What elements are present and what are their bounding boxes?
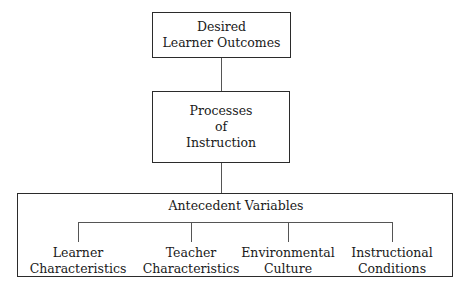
branch-drop-environmental	[288, 222, 289, 242]
leaf-instructional-line-2: Conditions	[351, 261, 433, 277]
diagram-canvas: Desired Learner Outcomes Processes of In…	[0, 0, 472, 291]
node-processes-of-instruction: Processes of Instruction	[152, 91, 290, 163]
connector-processes-to-antecedent	[221, 163, 222, 193]
node-outcomes-line-2: Learner Outcomes	[162, 35, 280, 51]
leaf-teacher-line-2: Characteristics	[143, 261, 240, 277]
leaf-instructional-line-1: Instructional	[351, 245, 433, 261]
branch-drop-teacher	[191, 222, 192, 242]
node-processes-line-1: Processes	[190, 103, 253, 119]
leaf-instructional-conditions: Instructional Conditions	[351, 245, 433, 278]
leaf-environmental-line-1: Environmental	[241, 245, 335, 261]
leaf-learner-line-2: Characteristics	[30, 261, 127, 277]
node-outcomes-line-1: Desired	[197, 19, 246, 35]
node-desired-learner-outcomes: Desired Learner Outcomes	[152, 12, 291, 58]
node-processes-line-3: Instruction	[186, 135, 256, 151]
node-processes-line-2: of	[215, 119, 227, 135]
leaf-teacher-characteristics: Teacher Characteristics	[143, 245, 240, 278]
branch-horizontal-bar	[78, 222, 393, 223]
leaf-learner-line-1: Learner	[30, 245, 127, 261]
leaf-learner-characteristics: Learner Characteristics	[30, 245, 127, 278]
connector-outcomes-to-processes	[221, 58, 222, 91]
branch-drop-learner	[78, 222, 79, 242]
branch-drop-instructional	[392, 222, 393, 242]
leaf-environmental-line-2: Culture	[241, 261, 335, 277]
leaf-environmental-culture: Environmental Culture	[241, 245, 335, 278]
antecedent-variables-title: Antecedent Variables	[0, 198, 472, 213]
leaf-teacher-line-1: Teacher	[143, 245, 240, 261]
